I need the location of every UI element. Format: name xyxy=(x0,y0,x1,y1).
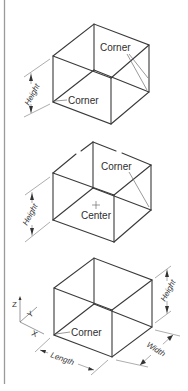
arrow-up-icon xyxy=(30,193,34,200)
y-axis-label: Y xyxy=(26,309,36,320)
z-axis-label: Z xyxy=(12,300,17,309)
arrow-up-icon xyxy=(29,74,33,81)
box-wireframe xyxy=(53,142,151,242)
figure-box-corner-corner: Corner Corner Height xyxy=(23,24,149,124)
arrow-up-icon xyxy=(165,270,169,277)
arrow-down-icon xyxy=(30,228,34,235)
figure-box-center-corner: Corner Center Height xyxy=(21,142,151,242)
axis-triad: Z Y X xyxy=(12,296,44,339)
corner-label-bottom: Corner xyxy=(71,327,102,338)
box-wireframe xyxy=(54,258,152,357)
arrow-left-icon xyxy=(40,350,46,354)
z-arrow-icon xyxy=(19,296,22,300)
arrow-down-icon xyxy=(165,306,169,313)
corner-label-top: Corner xyxy=(100,42,131,53)
width-dimension: Width xyxy=(116,330,180,367)
arrow-right-icon xyxy=(88,367,94,371)
corner-leader-bottom xyxy=(55,100,67,101)
corner-leader-top xyxy=(129,172,149,207)
box-creation-diagram: Corner Corner Height xyxy=(0,0,188,391)
corner-label-bottom: Corner xyxy=(68,95,99,106)
box-wireframe xyxy=(53,24,149,124)
center-label: Center xyxy=(81,210,112,221)
corner-label-top: Corner xyxy=(101,161,132,172)
x-axis-label: X xyxy=(30,329,39,340)
figure-box-corner-dimensions: Corner Z Y X Height xyxy=(12,258,180,375)
length-dimension: Length xyxy=(35,338,108,375)
height-dimension: Height xyxy=(155,266,178,323)
center-marker-icon xyxy=(92,201,100,209)
height-dimension: Height xyxy=(23,59,50,117)
height-dimension: Height xyxy=(21,177,50,242)
